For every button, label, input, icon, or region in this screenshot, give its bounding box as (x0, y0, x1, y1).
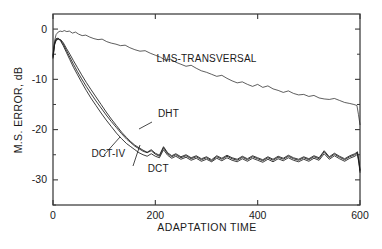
y-tick-label: 0 (41, 23, 47, 35)
y-axis-title: M.S. ERROR, dB (12, 67, 24, 154)
x-axis-title: ADAPTATION TIME (157, 221, 256, 233)
y-axis-tick-labels: 0-10-20-30 (32, 23, 47, 186)
x-tick-label: 600 (351, 209, 369, 221)
curve-label-dct-iv: DCT-IV (91, 148, 125, 159)
x-tick-label: 400 (249, 209, 267, 221)
y-tick-label: -10 (32, 73, 47, 85)
x-tick-label: 0 (50, 209, 56, 221)
chart-canvas: 0-10-20-30 0200400600 LMS-TRANSVERSAL DH… (0, 0, 382, 249)
y-tick-label: -30 (32, 173, 47, 185)
curve-label-dht: DHT (158, 108, 179, 119)
x-tick-label: 200 (147, 209, 165, 221)
curve-label-dct: DCT (148, 163, 169, 174)
x-axis-tick-labels: 0200400600 (50, 209, 369, 221)
leader-lines (104, 122, 152, 166)
curve-label-lms-transversal: LMS-TRANSVERSAL (156, 53, 256, 64)
chart-figure: 0-10-20-30 0200400600 LMS-TRANSVERSAL DH… (0, 0, 382, 249)
y-tick-label: -20 (32, 123, 47, 135)
